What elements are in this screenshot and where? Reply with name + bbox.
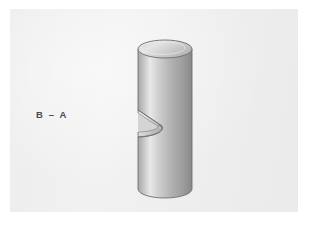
- cylinder-top-face: [138, 40, 192, 58]
- section-label: B – A: [36, 110, 68, 120]
- figure-root: B – A: [0, 0, 314, 227]
